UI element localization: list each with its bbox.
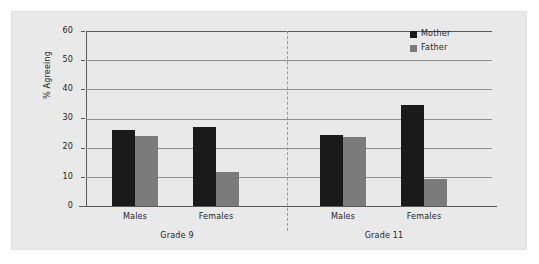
- legend-swatch-father-icon: [410, 45, 417, 52]
- y-tick-mark-60: [81, 31, 85, 32]
- gridline-50: [86, 60, 492, 61]
- y-tick-mark-50: [81, 60, 85, 61]
- y-tick-label-40: 40: [47, 85, 73, 93]
- chart-legend: Mother Father: [410, 28, 472, 56]
- y-tick-mark-20: [81, 148, 85, 149]
- y-tick-mark-40: [81, 89, 85, 90]
- legend-item-mother: Mother: [410, 28, 472, 40]
- legend-label-father: Father: [421, 44, 447, 52]
- y-tick-label-0: 0: [47, 202, 73, 210]
- bar-grade11-females-father: [424, 179, 447, 206]
- category-label-grade9-females: Females: [191, 212, 241, 221]
- bar-grade11-females-mother: [401, 105, 424, 206]
- bar-grade9-females-mother: [193, 127, 216, 206]
- y-tick-label-20: 20: [47, 143, 73, 151]
- bar-grade9-males-mother: [112, 130, 135, 206]
- y-tick-mark-10: [81, 177, 85, 178]
- group-label-grade11: Grade 11: [359, 231, 409, 240]
- plot-area: [86, 31, 492, 206]
- group-label-grade9: Grade 9: [152, 231, 202, 240]
- bar-grade9-females-father: [216, 172, 239, 206]
- gridline-40: [86, 89, 492, 90]
- chart-panel: % Agreeing 60 50 40 30 20 10 0: [11, 11, 527, 250]
- legend-swatch-mother-icon: [410, 31, 417, 38]
- gridline-30: [86, 119, 492, 120]
- y-tick-label-50: 50: [47, 56, 73, 64]
- group-divider: [287, 31, 288, 231]
- y-tick-label-10: 10: [47, 173, 73, 181]
- y-tick-label-60: 60: [47, 27, 73, 35]
- y-tick-label-30: 30: [47, 114, 73, 122]
- x-axis-line: [79, 206, 497, 207]
- category-label-grade11-males: Males: [318, 212, 368, 221]
- y-tick-mark-30: [81, 118, 85, 119]
- legend-item-father: Father: [410, 42, 472, 54]
- legend-label-mother: Mother: [421, 30, 450, 38]
- category-label-grade9-males: Males: [110, 212, 160, 221]
- chart-figure: % Agreeing 60 50 40 30 20 10 0: [0, 0, 539, 264]
- category-label-grade11-females: Females: [399, 212, 449, 221]
- bar-grade9-males-father: [135, 136, 158, 206]
- bar-grade11-males-father: [343, 137, 366, 206]
- bar-grade11-males-mother: [320, 135, 343, 206]
